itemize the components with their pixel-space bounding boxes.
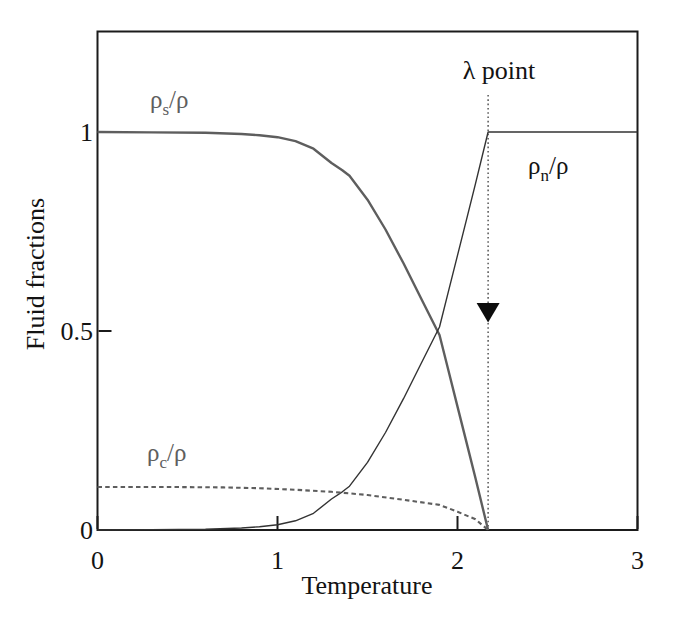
y-axis-title: Fluid fractions xyxy=(21,198,50,350)
condensate-label-rho: ρ xyxy=(147,439,159,466)
condensate-curve xyxy=(98,487,489,530)
x-tick-label: 1 xyxy=(271,546,284,575)
condensate-label-post: /ρ xyxy=(167,439,186,466)
superfluid-label-sub: s xyxy=(162,100,169,119)
y-tick-label: 0.5 xyxy=(61,317,94,346)
lambda-point-label: λ point xyxy=(463,56,536,85)
y-tick-label: 1 xyxy=(80,118,93,147)
superfluid-curve-label: ρs/ρ xyxy=(150,86,189,119)
x-axis-ticks: 0123 xyxy=(91,516,644,575)
superfluid-label-post: /ρ xyxy=(169,86,188,113)
normal-curve xyxy=(98,132,638,530)
y-axis-ticks: 00.51 xyxy=(61,118,112,545)
x-tick-label: 3 xyxy=(631,546,644,575)
normal-label-post: /ρ xyxy=(549,152,568,179)
lambda-arrow xyxy=(477,303,500,323)
fluid-fractions-chart: 0123 00.51 Temperature Fluid fractions λ… xyxy=(0,0,675,617)
normal-label-rho: ρ xyxy=(528,152,540,179)
down-arrow-icon xyxy=(477,303,500,323)
superfluid-curve xyxy=(98,132,489,530)
superfluid-label-rho: ρ xyxy=(150,86,162,113)
curves xyxy=(98,132,638,530)
x-tick-label: 0 xyxy=(91,546,104,575)
x-tick-label: 2 xyxy=(451,546,464,575)
fluid-fractions-figure: 0123 00.51 Temperature Fluid fractions λ… xyxy=(0,0,675,617)
y-tick-label: 0 xyxy=(80,516,93,545)
condensate-curve-label: ρc/ρ xyxy=(147,439,186,472)
normal-curve-label: ρn/ρ xyxy=(528,152,568,185)
x-axis-title: Temperature xyxy=(302,571,433,600)
